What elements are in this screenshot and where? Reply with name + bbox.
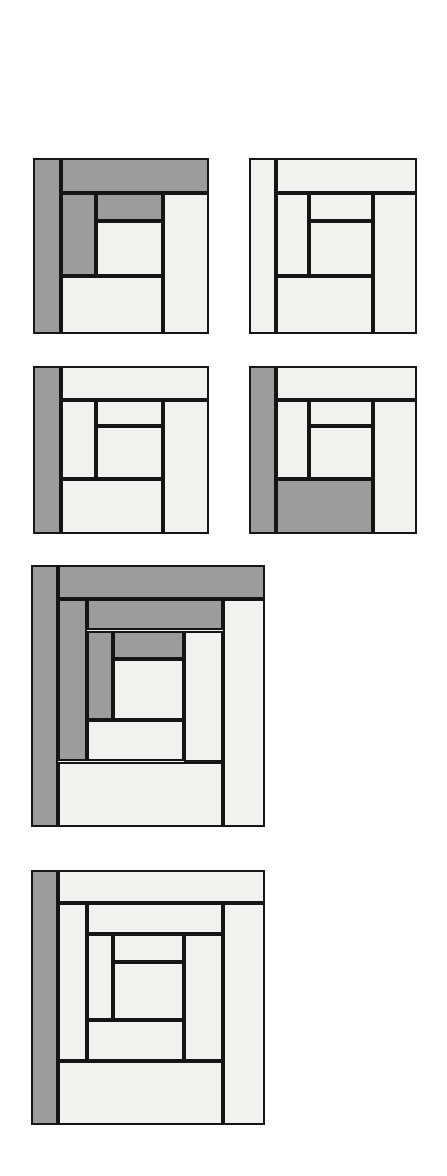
log-cabin-block-2-left-log	[249, 158, 276, 334]
log-cabin-block-1-left-log	[33, 158, 61, 334]
log-cabin-block-3[interactable]	[33, 366, 209, 534]
log-cabin-block-5-round3-top-log	[113, 631, 184, 660]
log-cabin-block-2[interactable]	[249, 158, 417, 334]
log-cabin-block-3-inner-center-log	[96, 426, 163, 478]
log-cabin-block-6-round1-right-log	[223, 903, 265, 1125]
log-cabin-block-1-inner-center-log	[96, 221, 163, 276]
log-cabin-block-1-top-log	[61, 158, 209, 193]
log-cabin-block-6-round1-top-log	[58, 870, 265, 903]
log-cabin-block-1-inner-left-log	[61, 193, 96, 276]
log-cabin-block-6-round2-right-log	[184, 934, 223, 1062]
log-cabin-block-6-round2-bottom-log	[87, 1020, 184, 1061]
log-cabin-block-2-inner-center-log	[309, 221, 373, 276]
log-cabin-block-2-bottom-log	[276, 276, 373, 334]
log-cabin-block-4-inner-left-log	[276, 400, 310, 479]
log-cabin-block-6-round2-left-log	[58, 903, 87, 1061]
log-cabin-block-4-inner-top-log	[309, 400, 373, 427]
log-cabin-block-6[interactable]	[31, 870, 265, 1125]
log-cabin-block-2-inner-left-log	[276, 193, 310, 276]
log-cabin-block-5[interactable]	[31, 565, 265, 827]
log-cabin-block-4-inner-center-log	[309, 426, 373, 478]
log-cabin-block-5-round1-bottom-log	[58, 762, 223, 828]
log-cabin-block-6-round1-left-log	[31, 870, 58, 1125]
log-cabin-block-4-right-log	[373, 400, 417, 534]
log-cabin-block-5-round1-top-log	[58, 565, 265, 599]
log-cabin-block-1-right-log	[163, 193, 209, 334]
log-cabin-block-5-round2-left-log	[58, 599, 87, 761]
log-cabin-block-3-top-log	[61, 366, 209, 400]
log-cabin-block-4-bottom-log	[276, 479, 373, 534]
log-cabin-block-2-right-log	[373, 193, 417, 334]
log-cabin-block-2-top-log	[276, 158, 417, 193]
log-cabin-block-3-right-log	[163, 400, 209, 534]
log-cabin-block-5-round1-left-log	[31, 565, 58, 827]
log-cabin-block-3-left-log	[33, 366, 61, 534]
log-cabin-block-3-bottom-log	[61, 479, 163, 534]
log-cabin-block-5-round2-top-log	[87, 599, 223, 630]
log-cabin-block-5-round1-right-log	[223, 599, 265, 827]
log-cabin-block-1-inner-top-log	[96, 193, 163, 221]
log-cabin-block-6-round3-top-log	[113, 934, 184, 962]
quilt-diagram-page	[0, 0, 447, 1176]
log-cabin-block-2-inner-top-log	[309, 193, 373, 221]
log-cabin-block-1[interactable]	[33, 158, 209, 334]
log-cabin-block-5-round2-right-log	[184, 631, 223, 762]
log-cabin-block-4-top-log	[276, 366, 417, 400]
log-cabin-block-3-inner-top-log	[96, 400, 163, 427]
log-cabin-block-3-inner-left-log	[61, 400, 96, 479]
log-cabin-block-1-bottom-log	[61, 276, 163, 334]
log-cabin-block-4-left-log	[249, 366, 276, 534]
log-cabin-block-6-round1-bottom-log	[58, 1061, 223, 1125]
log-cabin-block-6-round3-center-log	[113, 962, 184, 1021]
log-cabin-block-6-round3-left-log	[87, 934, 113, 1021]
log-cabin-block-5-round3-left-log	[87, 631, 113, 720]
log-cabin-block-5-round2-bottom-log	[87, 720, 184, 762]
log-cabin-block-5-round3-center-log	[113, 659, 184, 719]
log-cabin-block-4[interactable]	[249, 366, 417, 534]
log-cabin-block-6-round2-top-log	[87, 903, 223, 934]
